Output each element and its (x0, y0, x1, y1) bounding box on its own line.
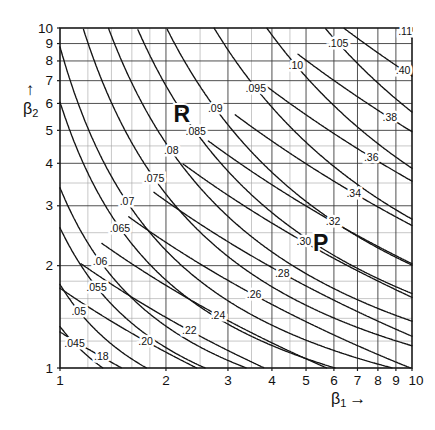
family-letter-R: R (174, 101, 191, 127)
family-letter-P: P (313, 230, 328, 256)
x-tick-label: 5 (302, 373, 310, 388)
x-tick-label: 7 (354, 373, 362, 388)
contour-label-R: .045 (64, 337, 85, 349)
y-tick-label: 4 (45, 156, 53, 171)
x-tick-label: 3 (224, 373, 232, 388)
y-tick-label: 6 (45, 96, 53, 111)
y-tick-label: 1 (45, 361, 53, 376)
contour-label-P: .18 (94, 350, 109, 362)
contour-curve-R (214, 28, 412, 219)
contour-label-P: .38 (383, 111, 398, 123)
contour-label-P: .26 (247, 288, 262, 300)
contour-label-P: .34 (346, 187, 361, 199)
contour-curve-P (102, 243, 327, 368)
contour-label-R: .105 (328, 37, 349, 49)
contour-label-P: .36 (364, 151, 379, 163)
x-tick-label: 4 (268, 373, 276, 388)
contour-chart-figure: 1234567891012345678910.045.05.055.06.065… (0, 0, 435, 430)
contour-label-P: .32 (326, 215, 341, 227)
contour-label-R: .11 (398, 25, 412, 37)
x-tick-label: 2 (162, 373, 170, 388)
x-tick-label: 1 (56, 373, 64, 388)
contour-label-R: .07 (120, 195, 135, 207)
contour-label-R: .075 (144, 172, 165, 184)
contour-label-R: .09 (208, 102, 223, 114)
contour-curve-P (154, 192, 412, 336)
contour-curve-P (235, 115, 412, 226)
y-tick-label: 10 (38, 21, 53, 36)
contour-label-R: .10 (289, 59, 304, 71)
contour-label-P: .28 (275, 267, 290, 279)
contour-label-R: .095 (246, 82, 267, 94)
contour-label-P: .30 (297, 235, 312, 247)
contour-label-P: .22 (182, 324, 197, 336)
y-axis-title-main: β (23, 100, 32, 117)
contour-curve-P (129, 217, 411, 368)
contour-plot-svg: 1234567891012345678910.045.05.055.06.065… (0, 0, 435, 430)
y-tick-label: 5 (45, 123, 53, 138)
x-tick-label: 8 (374, 373, 382, 388)
contour-curve-R (60, 102, 335, 368)
contour-label-R: .06 (93, 255, 108, 267)
y-axis-title-sub: 2 (32, 107, 38, 119)
contour-label-R: .085 (186, 125, 207, 137)
x-tick-label: 10 (408, 373, 423, 388)
x-axis-title-main: β (331, 390, 340, 407)
x-axis-title: β1→ (331, 389, 366, 409)
y-tick-label: 2 (45, 258, 53, 273)
chart-layer: 1234567891012345678910.045.05.055.06.065… (38, 21, 424, 389)
x-axis-arrow-icon: → (349, 389, 366, 408)
y-axis-title: β2 (23, 100, 38, 119)
contour-label-R: .05 (71, 305, 86, 317)
y-tick-label: 9 (45, 36, 53, 51)
contour-label-P: .20 (138, 335, 153, 347)
contour-label-R: .08 (164, 144, 179, 156)
y-axis-arrow-icon: ↑ (26, 80, 35, 99)
y-tick-label: 8 (45, 53, 53, 68)
x-tick-label: 6 (330, 373, 338, 388)
x-tick-label: 9 (392, 373, 400, 388)
contour-curve-P (265, 86, 412, 182)
contour-label-P: .24 (211, 309, 226, 321)
contour-label-R: .055 (86, 281, 107, 293)
y-tick-label: 7 (45, 73, 53, 88)
x-axis-title-sub: 1 (340, 397, 346, 409)
contour-label-R: .065 (110, 222, 131, 234)
contour-curve-R (267, 28, 412, 168)
contour-label-P: .40 (396, 64, 411, 76)
y-tick-label: 3 (45, 198, 53, 213)
